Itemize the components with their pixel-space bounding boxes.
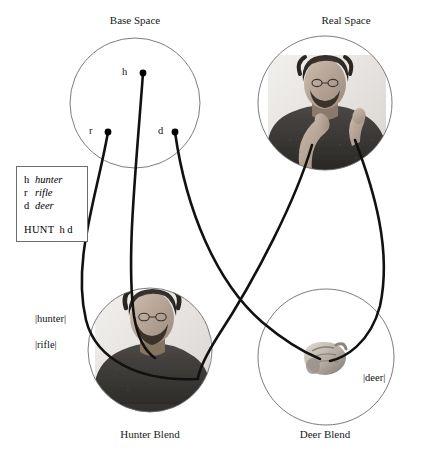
legend-box: hhunter rrifle ddeer HUNTh d xyxy=(16,166,88,242)
legend-frame-name: HUNT xyxy=(24,224,54,235)
node-dot-r xyxy=(105,129,112,136)
frame-label-rifle: |rifle| xyxy=(35,339,57,350)
legend-symbol-d: d xyxy=(24,199,35,212)
node-dot-d xyxy=(172,129,179,136)
node-label-r: r xyxy=(89,125,93,136)
hunter-blend-label: Hunter Blend xyxy=(70,428,230,440)
legend-row-h: hhunter xyxy=(24,173,87,186)
legend-row-r: rrifle xyxy=(24,186,87,199)
base-space-label: Base Space xyxy=(0,14,270,26)
real-space-photo xyxy=(268,55,386,170)
projection-real-to-deer-blend xyxy=(330,140,384,361)
node-dot-h xyxy=(140,70,147,77)
frame-label-deer: |deer| xyxy=(363,372,385,383)
deer-blend-label: Deer Blend xyxy=(245,428,405,440)
legend-gloss-d: deer xyxy=(35,200,54,211)
legend-gloss-r: rifle xyxy=(35,187,53,198)
base-space-circle xyxy=(70,38,200,168)
node-label-h: h xyxy=(122,66,127,77)
node-label-d: d xyxy=(158,125,163,136)
real-space-label: Real Space xyxy=(240,14,440,26)
hunter-blend-photo xyxy=(95,289,210,412)
frame-label-hunter: |hunter| xyxy=(35,313,66,324)
legend-row-d: ddeer xyxy=(24,199,87,212)
legend-symbol-r: r xyxy=(24,186,35,199)
legend-frame-args: h d xyxy=(59,224,72,235)
legend-frame-row: HUNTh d xyxy=(24,224,87,235)
legend-gloss-h: hunter xyxy=(35,174,62,185)
legend-symbol-h: h xyxy=(24,173,35,186)
